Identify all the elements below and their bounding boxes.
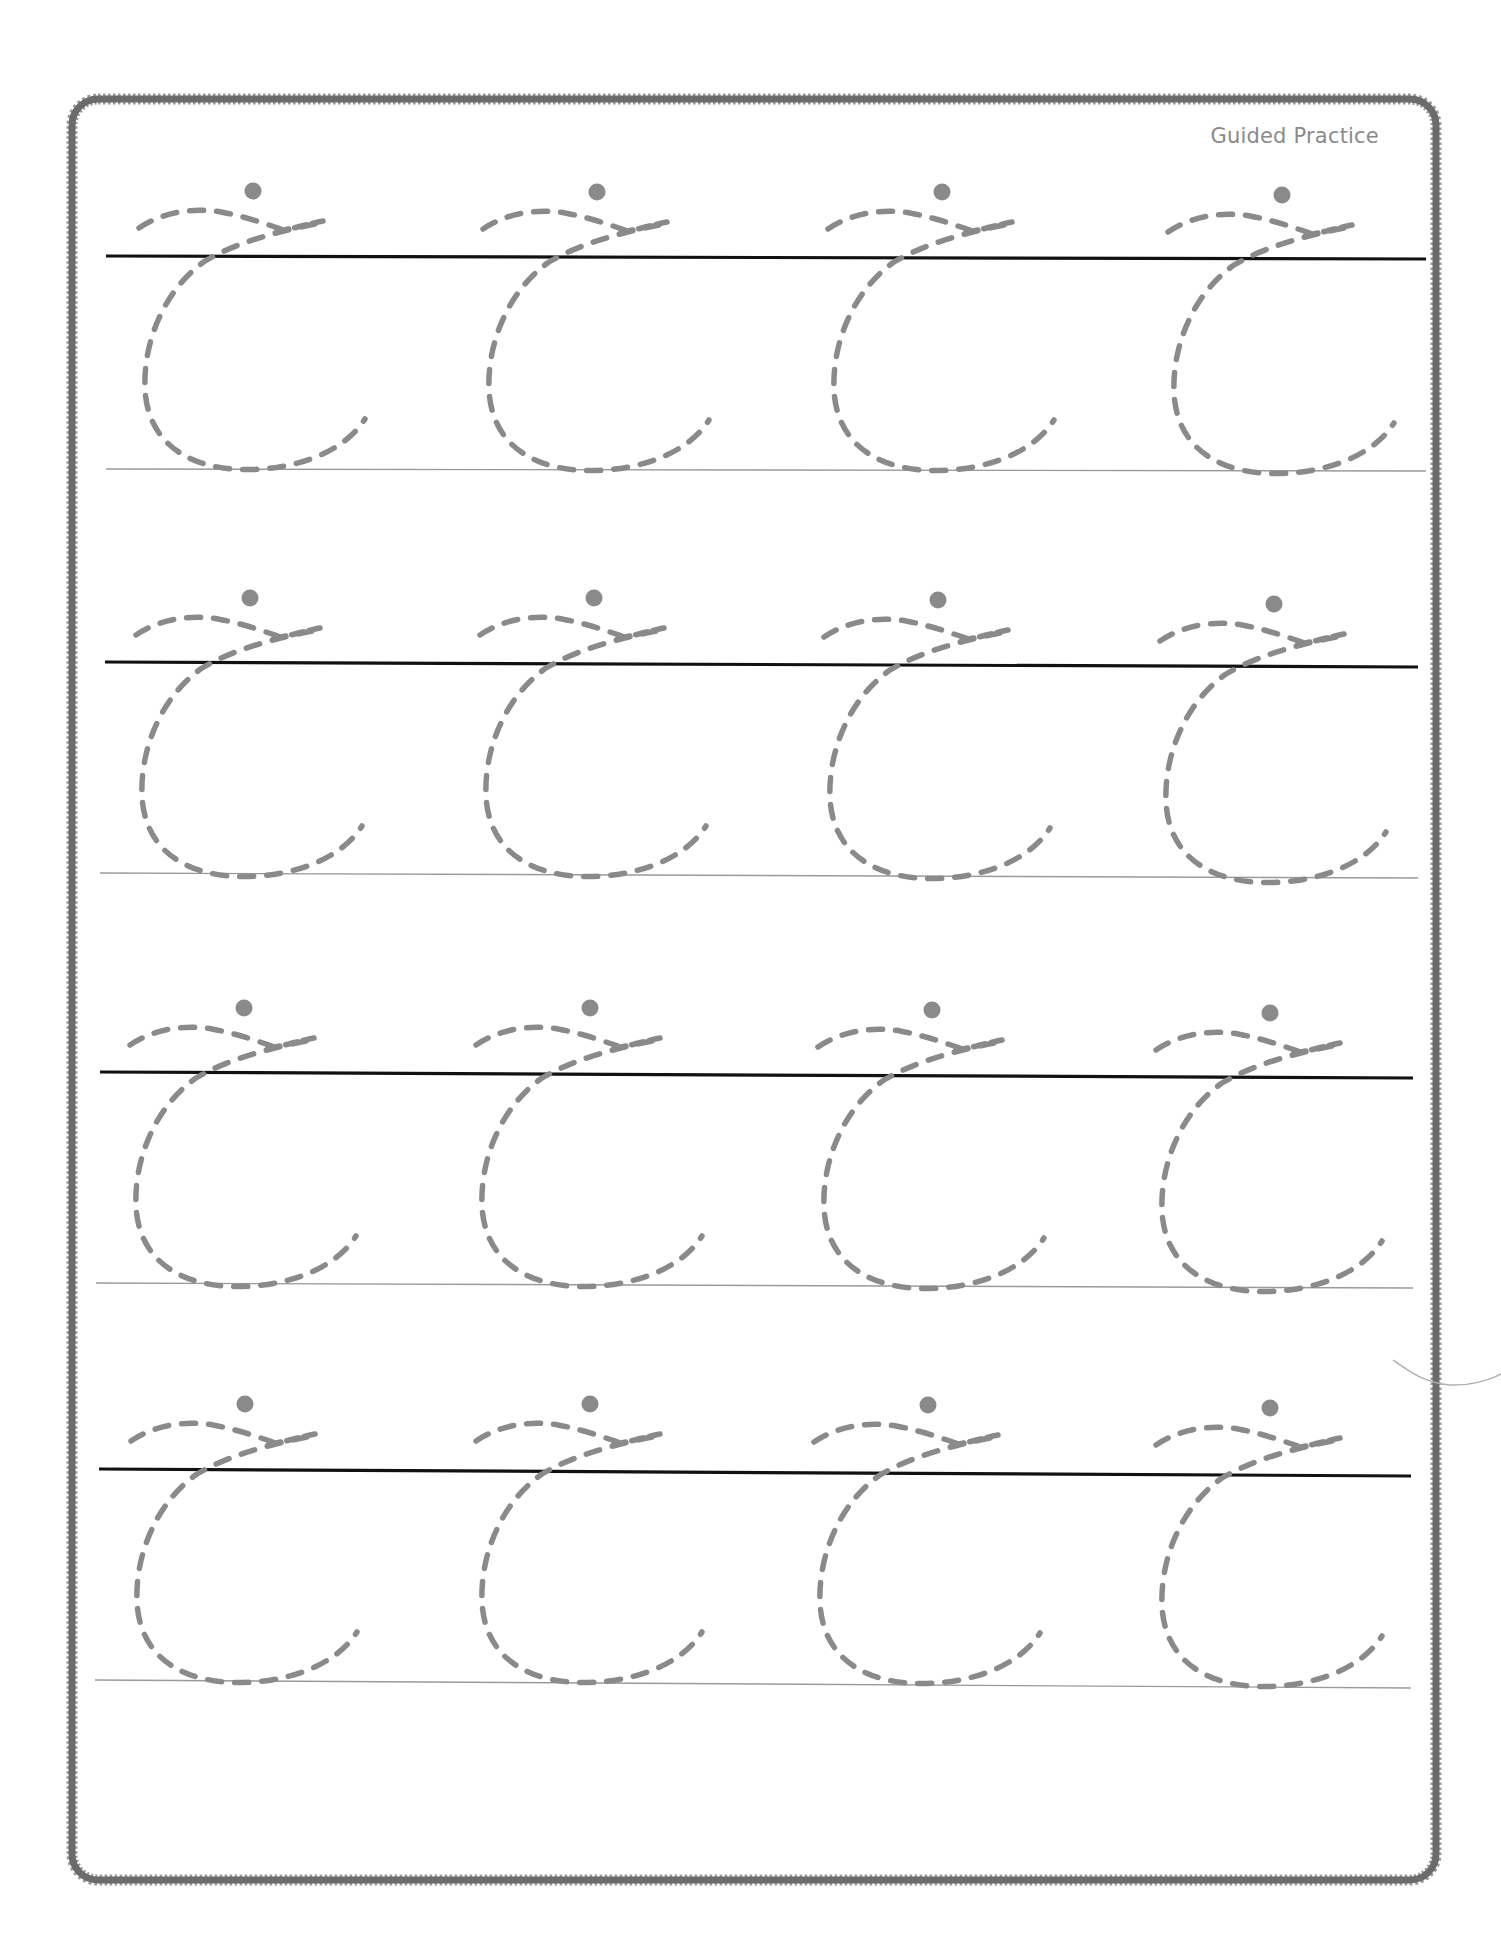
page-curl-arc: [1393, 1360, 1501, 1385]
start-dot-icon: [934, 184, 951, 201]
trace-stroke-body: [136, 1041, 356, 1287]
trace-stroke-body: [824, 1043, 1044, 1289]
start-dot-icon: [242, 590, 259, 607]
start-dot-icon: [589, 184, 606, 201]
trace-stroke-body: [1162, 1046, 1382, 1292]
baseline-row-1: [106, 469, 1426, 471]
start-dot-icon: [1262, 1400, 1279, 1417]
tracing-letter-c: [1168, 187, 1394, 474]
tracing-letter-c: [1156, 1400, 1382, 1687]
trace-stroke-body: [142, 631, 362, 877]
start-dot-icon: [930, 592, 947, 609]
tracing-letter-c: [480, 590, 706, 877]
tracing-letter-c: [828, 184, 1054, 471]
trace-stroke-entry: [139, 210, 281, 229]
trace-stroke-entry: [1160, 623, 1302, 642]
worksheet-canvas: [0, 0, 1501, 1952]
tracing-letter-c: [824, 592, 1050, 879]
start-dot-icon: [582, 1396, 599, 1413]
tracing-letter-c: [130, 1000, 356, 1287]
trace-stroke-entry: [1156, 1427, 1298, 1446]
trace-stroke-body: [482, 1437, 702, 1683]
trace-stroke-body: [1162, 1441, 1382, 1687]
start-dot-icon: [586, 590, 603, 607]
trace-stroke-entry: [136, 617, 278, 636]
trace-stroke-entry: [480, 617, 622, 636]
trace-stroke-entry: [1156, 1032, 1298, 1051]
trace-stroke-entry: [483, 211, 625, 230]
trace-stroke-entry: [824, 619, 966, 638]
trace-stroke-entry: [131, 1423, 273, 1442]
scalloped-border: [72, 99, 1436, 1880]
trace-stroke-entry: [814, 1424, 956, 1443]
trace-stroke-body: [137, 1437, 357, 1683]
headline-row-3: [100, 1072, 1413, 1078]
headline-row-1: [106, 256, 1426, 259]
baseline-row-4: [95, 1680, 1411, 1688]
trace-stroke-body: [145, 224, 365, 470]
tracing-letter-c: [476, 1000, 702, 1287]
start-dot-icon: [236, 1000, 253, 1017]
tracing-letter-c: [814, 1397, 1040, 1684]
start-dot-icon: [237, 1396, 254, 1413]
start-dot-icon: [245, 183, 262, 200]
trace-stroke-body: [486, 631, 706, 877]
trace-stroke-entry: [476, 1423, 618, 1442]
tracing-letter-c: [818, 1002, 1044, 1289]
start-dot-icon: [582, 1000, 599, 1017]
start-dot-icon: [1274, 187, 1291, 204]
trace-stroke-entry: [130, 1027, 272, 1046]
start-dot-icon: [924, 1002, 941, 1019]
trace-stroke-body: [830, 633, 1050, 879]
trace-stroke-entry: [1168, 214, 1310, 233]
tracing-letter-c: [483, 184, 709, 471]
trace-stroke-body: [489, 225, 709, 471]
worksheet-page: Guided Practice: [0, 0, 1501, 1952]
headline-row-4: [99, 1469, 1411, 1476]
start-dot-icon: [1266, 596, 1283, 613]
trace-stroke-entry: [818, 1029, 960, 1048]
tracing-letter-c: [131, 1396, 357, 1683]
tracing-letter-c: [139, 183, 365, 470]
tracing-letter-c: [1156, 1005, 1382, 1292]
headline-row-2: [105, 662, 1418, 667]
tracing-letter-c: [136, 590, 362, 877]
trace-stroke-body: [1166, 637, 1386, 883]
trace-stroke-body: [1174, 228, 1394, 474]
trace-stroke-body: [834, 225, 1054, 471]
page-title: Guided Practice: [1210, 124, 1379, 148]
trace-stroke-body: [482, 1041, 702, 1287]
trace-stroke-entry: [828, 211, 970, 230]
tracing-letter-c: [476, 1396, 702, 1683]
trace-stroke-entry: [476, 1027, 618, 1046]
tracing-glyphs: [130, 183, 1394, 1687]
start-dot-icon: [1262, 1005, 1279, 1022]
start-dot-icon: [920, 1397, 937, 1414]
tracing-letter-c: [1160, 596, 1386, 883]
